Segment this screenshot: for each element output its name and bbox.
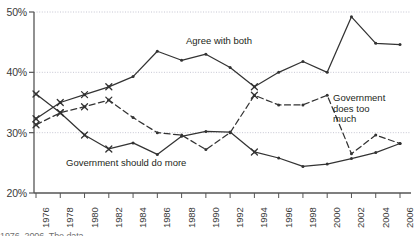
point-marker — [301, 165, 304, 168]
point-marker — [326, 163, 329, 166]
x-marker — [106, 97, 112, 103]
point-marker — [277, 157, 280, 160]
x-marker — [251, 92, 257, 98]
point-marker — [277, 103, 280, 106]
x-marker — [82, 92, 88, 98]
series-annotation-1: Government does too much — [333, 93, 395, 125]
x-axis-label-1994: 1994 — [258, 207, 269, 228]
point-marker — [204, 53, 207, 56]
x-axis-label-1992: 1992 — [234, 207, 245, 228]
point-marker — [399, 43, 402, 46]
x-axis-label-1984: 1984 — [137, 207, 148, 228]
x-axis-label-1980: 1980 — [89, 207, 100, 228]
x-axis-label-1998: 1998 — [307, 207, 318, 228]
point-marker — [374, 42, 377, 45]
x-marker — [82, 132, 88, 138]
x-axis-label-1982: 1982 — [113, 207, 124, 228]
point-marker — [399, 142, 402, 145]
x-axis-label-1988: 1988 — [186, 207, 197, 228]
x-axis-label-2000: 2000 — [331, 207, 342, 228]
x-axis-label-1990: 1990 — [210, 207, 221, 228]
y-axis-label-40%: 40% — [0, 66, 27, 78]
x-marker — [57, 100, 63, 106]
point-marker — [350, 15, 353, 18]
point-marker — [326, 71, 329, 74]
point-marker — [156, 50, 159, 53]
x-axis-label-2004: 2004 — [380, 207, 391, 228]
point-marker — [132, 116, 135, 119]
x-marker — [251, 84, 257, 90]
point-marker — [326, 94, 329, 97]
point-marker — [204, 148, 207, 151]
point-marker — [204, 130, 207, 133]
point-marker — [180, 59, 183, 62]
point-marker — [229, 66, 232, 69]
point-marker — [180, 135, 183, 138]
point-marker — [374, 134, 377, 137]
point-marker — [301, 103, 304, 106]
point-marker — [229, 131, 232, 134]
bottom-caption: 1976–2006. The data — [0, 231, 413, 236]
x-axis-label-1976: 1976 — [40, 207, 51, 228]
x-axis-label-1986: 1986 — [161, 207, 172, 228]
y-axis-label-30%: 30% — [0, 127, 27, 139]
x-axis-label-2006: 2006 — [404, 207, 415, 228]
y-axis-label-50%: 50% — [0, 6, 27, 18]
point-marker — [374, 151, 377, 154]
x-axis-label-1978: 1978 — [64, 207, 75, 228]
x-tick-marks-group — [36, 193, 400, 198]
point-marker — [132, 141, 135, 144]
x-axis-label-1996: 1996 — [283, 207, 294, 228]
series-annotation-0: Agree with both — [186, 36, 252, 47]
y-axis-label-20%: 20% — [0, 187, 27, 199]
point-marker — [350, 152, 353, 155]
x-axis-label-2002: 2002 — [355, 207, 366, 228]
point-marker — [156, 131, 159, 134]
x-marker — [106, 84, 112, 90]
point-marker — [156, 153, 159, 156]
series-annotation-2: Government should do more — [66, 158, 186, 169]
point-marker — [132, 75, 135, 78]
point-marker — [277, 71, 280, 74]
point-marker — [350, 157, 353, 160]
point-marker — [301, 60, 304, 63]
